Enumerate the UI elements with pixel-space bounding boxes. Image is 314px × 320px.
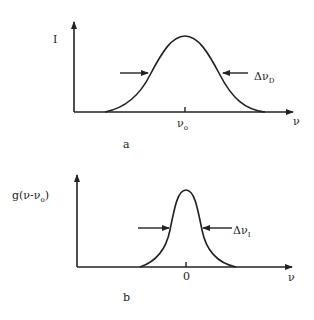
panel-a: I ν νo ΔνD a — [53, 22, 300, 151]
intrinsic-width-label: ΔνI — [233, 224, 251, 239]
caption-b: b — [123, 291, 130, 304]
diagram-canvas: I ν νo ΔνD a g(ν-νo) ν 0 ΔνI b — [0, 0, 314, 320]
y-label-a: I — [53, 33, 57, 46]
figure: I ν νo ΔνD a g(ν-νo) ν 0 ΔνI b — [0, 0, 314, 320]
tick-label-b: 0 — [183, 270, 190, 283]
y-label-b: g(ν-νo) — [12, 189, 49, 204]
caption-a: a — [123, 138, 130, 151]
x-label-a: ν — [293, 115, 300, 128]
doppler-width-label: ΔνD — [254, 70, 275, 85]
panel-b: g(ν-νo) ν 0 ΔνI b — [12, 175, 295, 304]
tick-label-a: νo — [177, 117, 188, 132]
x-label-b: ν — [288, 271, 295, 284]
gaussian-curve-a — [105, 36, 265, 112]
